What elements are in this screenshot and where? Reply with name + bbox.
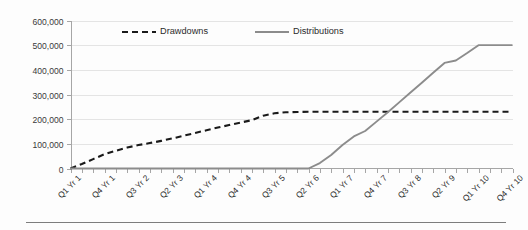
x-axis-label-4: Q1 Yr 4 bbox=[192, 173, 220, 201]
y-axis-label-4: 400,000 bbox=[32, 66, 63, 76]
series-line-drawdowns bbox=[71, 112, 513, 169]
x-axis-label-11: Q2 Yr 9 bbox=[430, 173, 458, 201]
chart-container: 0100,000200,000300,000400,000500,000600,… bbox=[0, 0, 528, 230]
x-axis-label-7: Q2 Yr 6 bbox=[294, 173, 322, 201]
y-axis-label-1: 100,000 bbox=[32, 140, 63, 150]
x-axis-label-2: Q3 Yr 2 bbox=[124, 173, 152, 201]
legend-label-distributions: Distributions bbox=[293, 26, 344, 36]
x-axis-label-12: Q1 Yr 10 bbox=[460, 173, 491, 204]
x-axis-label-10: Q3 Yr 8 bbox=[396, 173, 424, 201]
y-axis-label-6: 600,000 bbox=[32, 17, 63, 27]
x-axis-label-6: Q3 Yr 5 bbox=[260, 173, 288, 201]
x-axis-label-8: Q1 Yr 7 bbox=[328, 173, 356, 201]
y-axis-label-0: 0 bbox=[59, 165, 64, 175]
x-axis-label-3: Q2 Yr 3 bbox=[158, 173, 186, 201]
cashflow-line-chart: 0100,000200,000300,000400,000500,000600,… bbox=[0, 0, 528, 230]
y-axis-label-3: 300,000 bbox=[32, 91, 63, 101]
y-axis-label-2: 200,000 bbox=[32, 115, 63, 125]
y-axis-label-5: 500,000 bbox=[32, 41, 63, 51]
x-axis-label-5: Q4 Yr 4 bbox=[226, 173, 254, 201]
x-axis-label-9: Q4 Yr 7 bbox=[362, 173, 390, 201]
series-line-distributions bbox=[71, 45, 513, 168]
x-axis-label-0: Q1 Yr 1 bbox=[56, 173, 84, 201]
x-axis-label-1: Q4 Yr 1 bbox=[90, 173, 118, 201]
x-axis-label-13: Q4 Yr 10 bbox=[494, 173, 525, 204]
legend-label-drawdowns: Drawdowns bbox=[160, 26, 208, 36]
